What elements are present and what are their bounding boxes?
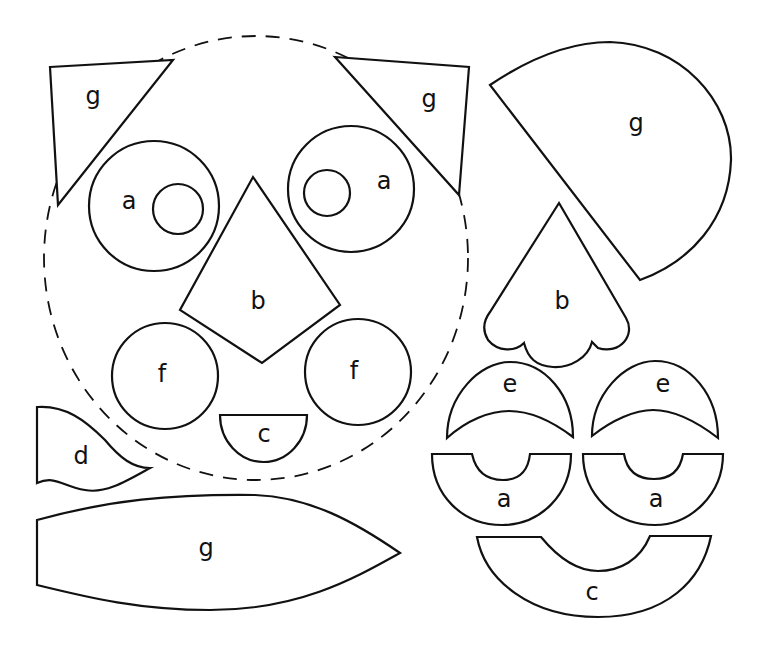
big-arc-piece: c: [477, 536, 711, 617]
eye-left-label: a: [122, 187, 137, 215]
big-sector-label: g: [628, 109, 643, 137]
long-leaf-piece: g: [37, 495, 400, 610]
arc-right-piece: a: [583, 454, 723, 525]
ear-right-label: g: [421, 85, 436, 113]
cheek-left-piece: f: [112, 323, 218, 429]
crescent-right-piece: e: [592, 361, 718, 438]
long-leaf-label: g: [198, 534, 213, 562]
template-canvas: g g a a b f f c d g: [0, 0, 765, 651]
mouth-label: c: [257, 420, 270, 448]
piece-d-label: d: [73, 442, 88, 470]
arc-left-label: a: [497, 485, 512, 513]
crescent-left-label: e: [503, 370, 518, 398]
arc-left-piece: a: [432, 454, 571, 525]
cheek-left-label: f: [158, 360, 167, 388]
big-sector-piece: g: [490, 42, 731, 280]
eye-right-piece: a: [288, 126, 414, 252]
mouth-piece: c: [220, 415, 307, 462]
arc-right-label: a: [649, 485, 664, 513]
eye-left-piece: a: [89, 141, 219, 271]
template-svg: g g a a b f f c d g: [0, 0, 765, 651]
nose-label: b: [250, 287, 265, 315]
ear-left-label: g: [85, 82, 100, 110]
eye-right-label: a: [377, 167, 392, 195]
scallop-nose-label: b: [554, 287, 569, 315]
big-arc-label: c: [585, 578, 598, 606]
crescent-right-label: e: [656, 370, 671, 398]
crescent-left-piece: e: [447, 362, 573, 438]
cheek-right-label: f: [350, 357, 359, 385]
cheek-right-piece: f: [305, 319, 411, 425]
